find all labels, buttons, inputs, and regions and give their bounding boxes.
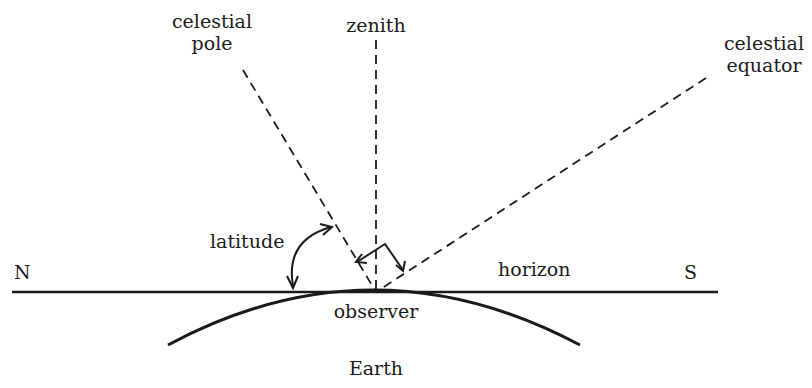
- celestial-pole-line: [243, 70, 376, 292]
- north-label: N: [14, 261, 31, 283]
- celestial-pole-label-line1: celestial: [166, 10, 258, 32]
- celestial-pole-label: celestial pole: [166, 10, 258, 54]
- celestial-equator-label-line2: equator: [716, 54, 812, 76]
- latitude-label: latitude: [210, 230, 284, 252]
- horizon-label: horizon: [498, 258, 571, 280]
- observer-label: observer: [326, 300, 426, 322]
- diagram-graphics: [0, 0, 812, 388]
- zenith-label: zenith: [336, 14, 416, 36]
- celestial-pole-label-line2: pole: [166, 32, 258, 54]
- earth-label: Earth: [336, 357, 416, 379]
- celestial-equator-label-line1: celestial: [716, 32, 812, 54]
- south-label: S: [684, 261, 697, 283]
- celestial-diagram: celestial pole zenith celestial equator …: [0, 0, 812, 388]
- celestial-equator-label: celestial equator: [716, 32, 812, 76]
